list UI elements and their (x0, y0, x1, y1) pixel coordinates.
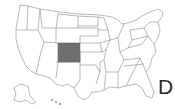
partial-label: D (158, 76, 173, 97)
us-outline (16, 5, 163, 100)
state-hawaii (51, 99, 61, 105)
state-colorado[interactable] (58, 43, 80, 62)
us-map (0, 0, 175, 109)
state-alaska (14, 84, 36, 104)
